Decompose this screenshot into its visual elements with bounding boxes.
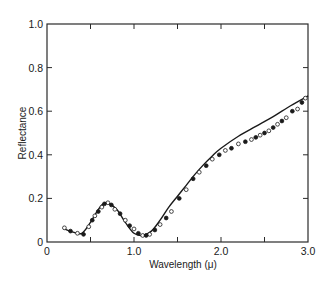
- y-tick-label: 0: [37, 236, 43, 248]
- filled-data-point: [164, 216, 168, 220]
- x-tick-label: 2.0: [214, 245, 229, 257]
- filled-data-point: [290, 109, 294, 113]
- filled-data-point: [153, 228, 157, 232]
- x-tick-label: 3.0: [301, 245, 316, 257]
- filled-data-point: [263, 131, 267, 135]
- filled-data-point: [271, 126, 275, 130]
- open-data-point: [223, 149, 227, 153]
- filled-data-point: [118, 212, 122, 216]
- filled-data-point: [254, 135, 258, 139]
- reflectance-chart: 01.02.03.0 00.20.40.60.81.0 Wavelength (…: [0, 0, 331, 287]
- filled-data-point: [103, 202, 107, 206]
- x-tick-label: 1.0: [127, 245, 142, 257]
- y-tick-label: 0.4: [28, 149, 43, 161]
- open-data-point: [100, 205, 104, 209]
- open-data-point: [267, 129, 271, 133]
- open-data-point: [276, 122, 280, 126]
- filled-data-point: [230, 146, 234, 150]
- theoretical-curve: [64, 96, 308, 236]
- open-data-point: [87, 225, 91, 229]
- open-data-point: [113, 207, 117, 211]
- x-axis-title: Wavelength (μ): [149, 259, 217, 270]
- open-data-point: [284, 116, 288, 120]
- filled-data-point: [136, 231, 140, 235]
- y-tick-label: 0.8: [28, 62, 43, 74]
- x-tick-label: 0: [44, 245, 50, 257]
- open-data-point: [132, 227, 136, 231]
- fit-curve: [64, 96, 308, 236]
- open-data-point: [237, 142, 241, 146]
- open-data-point: [76, 231, 80, 235]
- open-data-point: [123, 218, 127, 222]
- filled-data-point: [280, 119, 284, 123]
- y-tick-label: 0.6: [28, 105, 43, 117]
- filled-data-point: [109, 203, 113, 207]
- filled-data-point: [204, 164, 208, 168]
- filled-data-point: [144, 234, 148, 238]
- y-tick-label: 1.0: [28, 18, 43, 30]
- open-data-point: [296, 107, 300, 111]
- open-data-point: [63, 226, 67, 230]
- open-data-point: [303, 96, 307, 100]
- x-axis-ticks: 01.02.03.0: [44, 24, 315, 257]
- y-tick-label: 0.2: [28, 192, 43, 204]
- filled-data-point: [177, 197, 181, 201]
- open-data-point: [258, 133, 262, 137]
- filled-data-point: [128, 224, 132, 228]
- filled-data-point: [96, 210, 100, 214]
- filled-data-point: [300, 101, 304, 105]
- filled-data-point: [217, 153, 221, 157]
- filled-data-point: [243, 140, 247, 144]
- open-data-point: [197, 170, 201, 174]
- y-axis-title: Reflectance: [17, 106, 28, 159]
- open-data-point: [210, 157, 214, 161]
- open-data-point: [158, 223, 162, 227]
- filled-data-point: [191, 177, 195, 181]
- open-data-point: [250, 138, 254, 142]
- open-data-point: [184, 188, 188, 192]
- filled-data-point: [69, 229, 73, 233]
- open-data-point: [170, 210, 174, 214]
- filled-data-point: [82, 232, 86, 236]
- filled-data-point: [90, 218, 94, 222]
- open-data-point: [93, 214, 97, 218]
